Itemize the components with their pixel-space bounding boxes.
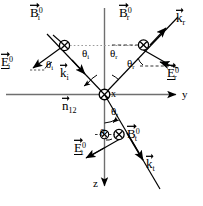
optics-interface-diagram: B0i B0r kr E0i θi ki θi θr θr E0r y x n1…	[0, 0, 203, 206]
theta-i-left-subscript: i	[51, 64, 53, 71]
B-t-glyph: B	[127, 126, 136, 141]
label-E-i-0: E0i	[1, 55, 10, 71]
label-theta-i-left: θi	[46, 59, 53, 72]
label-theta-t-upper: θt	[111, 106, 118, 119]
E-t-symbol-with-arrow: E	[74, 141, 82, 154]
n-glyph: n	[62, 98, 69, 113]
theta-t-lower-arc	[106, 139, 112, 140]
k-i-symbol-with-arrow: k	[60, 66, 67, 79]
B-r-symbol-with-arrow: B	[119, 6, 128, 19]
E-t-arrow	[86, 148, 104, 158]
transmitted-ray-group	[86, 95, 160, 190]
label-theta-r-upper: θr	[110, 48, 118, 61]
B-r-glyph: B	[119, 5, 128, 20]
E-r-stem	[144, 50, 169, 64]
label-theta-i-upper: θi	[82, 48, 89, 61]
E-r-glyph: E	[167, 65, 175, 80]
B-r-into-page-marker	[138, 40, 148, 50]
E-i-glyph: E	[1, 54, 9, 69]
label-theta-r-right: θr	[127, 58, 135, 71]
label-k-t: kt	[146, 157, 155, 173]
label-B-i-0: B0i	[30, 6, 40, 22]
k-r-symbol-with-arrow: k	[176, 11, 183, 24]
k-t-glyph: k	[146, 156, 153, 171]
k-i-glyph: k	[60, 65, 67, 80]
label-n-12: n12	[62, 99, 77, 115]
reflected-ray-arrow	[150, 28, 166, 45]
B-t-into-page-marker	[114, 129, 124, 139]
label-k-r: kr	[176, 11, 185, 27]
theta-r-upper-subscript: r	[115, 53, 117, 60]
label-B-t-0: B0t	[127, 127, 137, 143]
label-x-axis: x	[111, 89, 116, 99]
E-t-glyph: E	[74, 140, 82, 155]
label-E-r-0: E0r	[167, 66, 177, 82]
B-t-symbol-with-arrow: B	[127, 127, 136, 140]
B-i-glyph: B	[30, 5, 39, 20]
theta-i-arc-tip	[84, 84, 88, 87]
theta-r-right-arc	[138, 58, 143, 65]
theta-t-lower-subscript: t	[105, 132, 107, 139]
label-k-i: ki	[60, 66, 69, 82]
label-y-axis: y	[182, 89, 188, 100]
incident-ray-arrow	[72, 60, 85, 74]
k-t-symbol-with-arrow: k	[146, 157, 153, 170]
B-i-symbol-with-arrow: B	[30, 6, 39, 19]
E-r-underline: E	[167, 66, 175, 80]
theta-r-right-subscript: r	[132, 63, 134, 70]
theta-r-arc	[112, 75, 119, 80]
E-i-symbol-with-arrow: E	[1, 55, 9, 68]
n-symbol-with-arrow: n	[62, 99, 69, 112]
E-r-symbol-with-arrow: E	[167, 66, 175, 79]
label-E-t-0: E0t	[74, 141, 83, 157]
diagram-canvas	[0, 0, 203, 206]
E-i-underline: E	[1, 55, 9, 69]
k-r-glyph: k	[176, 10, 183, 25]
E-t-underline: E	[74, 141, 82, 155]
label-z-axis: z	[93, 178, 98, 189]
theta-i-upper-subscript: i	[87, 53, 89, 60]
theta-t-upper-subscript: t	[116, 111, 118, 118]
label-theta-t-lower: θt	[100, 128, 107, 139]
n-subscript: 12	[69, 106, 77, 115]
label-B-r-0: B0r	[119, 6, 129, 22]
